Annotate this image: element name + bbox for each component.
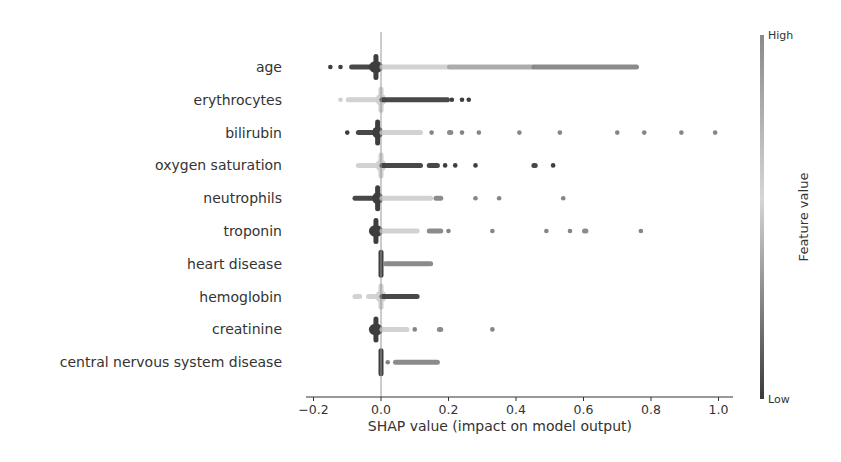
feature-label: hemoglobin — [199, 289, 282, 305]
plot-area — [0, 0, 841, 462]
feature-row — [369, 218, 643, 244]
x-tick-label: 1.0 — [709, 402, 729, 417]
feature-row — [353, 284, 420, 310]
colorbar-title: Feature value — [796, 173, 811, 262]
x-tick-label: 0.0 — [371, 402, 391, 417]
feature-row — [353, 185, 566, 211]
feature-label: oxygen saturation — [155, 157, 282, 173]
x-axis-ticks — [314, 397, 719, 401]
shap-summary-plot: ageerythrocytesbilirubinoxygen saturatio… — [0, 0, 841, 462]
feature-label: creatinine — [212, 321, 282, 337]
feature-row — [379, 250, 434, 278]
feature-label: neutrophils — [203, 190, 282, 206]
feature-label: bilirubin — [225, 125, 282, 141]
data-points — [328, 54, 717, 376]
feature-label: troponin — [223, 223, 282, 239]
x-tick-label: 0.6 — [574, 402, 594, 417]
feature-label: heart disease — [187, 256, 282, 272]
x-tick-label: 0.4 — [506, 402, 526, 417]
x-tick-label: 0.8 — [641, 402, 661, 417]
feature-label: central nervous system disease — [60, 354, 282, 370]
colorbar-high-label: High — [768, 29, 793, 42]
feature-label: erythrocytes — [194, 92, 282, 108]
feature-row — [379, 348, 440, 376]
feature-row — [356, 152, 556, 178]
x-axis-label: SHAP value (impact on model output) — [368, 418, 632, 434]
feature-row — [345, 120, 717, 146]
feature-row — [369, 316, 495, 342]
x-tick-label: 0.2 — [439, 402, 459, 417]
feature-label: age — [256, 59, 282, 75]
colorbar — [760, 35, 764, 399]
colorbar-low-label: Low — [768, 393, 790, 406]
x-tick-label: −0.2 — [298, 402, 328, 417]
feature-row — [328, 54, 639, 80]
feature-row — [338, 87, 471, 113]
